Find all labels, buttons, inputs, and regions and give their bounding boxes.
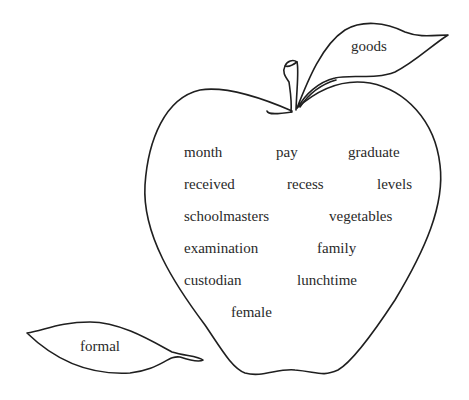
apple-word: female bbox=[231, 305, 272, 320]
apple-word: schoolmasters bbox=[184, 209, 269, 224]
apple-word: custodian bbox=[184, 273, 242, 288]
apple-word: month bbox=[184, 145, 222, 160]
apple-word: recess bbox=[287, 177, 324, 192]
leaf-bottom-word: formal bbox=[80, 339, 120, 354]
apple-word: graduate bbox=[348, 145, 400, 160]
apple-word: vegetables bbox=[329, 209, 392, 224]
apple-word: examination bbox=[184, 241, 258, 256]
apple-dimple bbox=[267, 111, 292, 114]
apple-word: lunchtime bbox=[297, 273, 357, 288]
apple-word: levels bbox=[377, 177, 412, 192]
apple-word: family bbox=[317, 241, 356, 256]
leaf-top-outline bbox=[297, 23, 448, 108]
apple-word: received bbox=[184, 177, 235, 192]
apple-outline bbox=[145, 82, 441, 374]
apple-word: pay bbox=[276, 145, 298, 160]
apple-illustration bbox=[0, 0, 469, 400]
apple-stem bbox=[284, 61, 298, 112]
leaf-top-word: goods bbox=[351, 39, 387, 54]
